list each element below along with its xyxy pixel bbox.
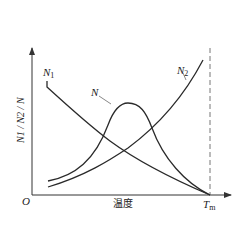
label-n1: N1 [42, 66, 54, 80]
y-axis-label: N1 / N2 / N [15, 96, 26, 144]
curve-n [48, 103, 210, 195]
curve-n2 [48, 60, 203, 187]
chart: N1 N N2 N1 / N2 / N O 温度 Tm [0, 0, 248, 229]
n-label-leader [99, 96, 111, 104]
label-n: N [90, 86, 99, 98]
tm-label: Tm [203, 198, 216, 212]
label-n2: N2 [176, 64, 188, 78]
origin-label: O [22, 195, 30, 207]
x-axis-label: 温度 [113, 197, 133, 209]
